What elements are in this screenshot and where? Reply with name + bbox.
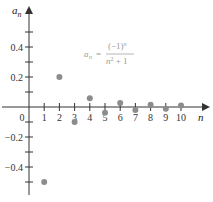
- sequence-plot: 0.40.2−0.2−0.4 012345678910 an n a n = (…: [0, 0, 213, 202]
- data-point: [132, 107, 138, 113]
- data-point: [102, 110, 108, 116]
- svg-text:=: =: [96, 49, 101, 59]
- svg-text:n2 + 1: n2 + 1: [106, 56, 128, 66]
- data-point: [56, 74, 62, 80]
- x-tick-label: 2: [57, 112, 62, 123]
- data-point: [72, 119, 78, 125]
- data-point: [117, 100, 123, 106]
- data-point: [163, 106, 169, 112]
- x-axis-label: n: [198, 111, 204, 123]
- x-tick-label: 9: [163, 112, 168, 123]
- y-tick-label: 0.2: [11, 72, 24, 83]
- x-tick-label: 10: [176, 112, 186, 123]
- formula-annotation: a n = (−1)n n2 + 1: [84, 41, 134, 66]
- data-point: [41, 179, 47, 185]
- data-point: [148, 102, 154, 108]
- y-tick-label: −0.2: [5, 132, 23, 143]
- data-point: [87, 95, 93, 101]
- y-tick-label: −0.4: [5, 162, 23, 173]
- svg-text:(−1)n: (−1)n: [108, 41, 127, 51]
- x-tick-label: 8: [148, 112, 153, 123]
- data-points: [41, 74, 184, 185]
- x-tick-label: 1: [42, 112, 47, 123]
- data-point: [178, 103, 184, 109]
- x-tick-label: 0: [20, 112, 25, 123]
- svg-text:n: n: [89, 54, 92, 60]
- x-tick-label: 7: [133, 112, 138, 123]
- y-tick-label: 0.4: [11, 42, 24, 53]
- x-tick-label: 6: [118, 112, 123, 123]
- x-tick-label: 4: [87, 112, 92, 123]
- y-axis-label: an: [12, 4, 22, 19]
